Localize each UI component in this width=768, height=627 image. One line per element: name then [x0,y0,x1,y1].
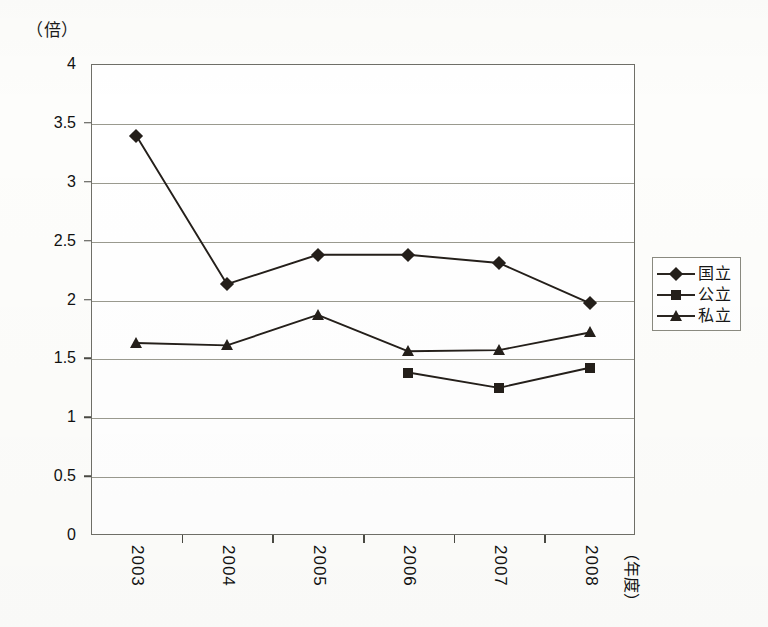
line-chart: （倍） 43.532.521.510.50 200320042005200620… [0,0,768,627]
x-axis-tick-label: 2007 [490,545,510,587]
gridline [92,418,634,419]
data-point-私立-2004 [221,339,233,350]
plot-area [91,64,635,535]
legend-item-公立[interactable]: 公立 [657,284,736,305]
legend-label: 私立 [695,308,731,324]
legend-label: 国立 [695,266,731,282]
data-point-私立-2005 [312,309,324,320]
x-axis-tick-mark [182,535,184,543]
legend-label: 公立 [695,287,731,303]
gridline [92,124,634,125]
y-axis-tick-mark [84,358,91,360]
x-axis-tick-mark [454,535,456,543]
gridline [92,359,634,360]
x-axis-tick-mark [272,535,274,543]
y-axis-tick-label: 1.5 [16,349,76,367]
y-axis-tick-label: 1 [16,408,76,426]
y-axis-tick-mark [84,475,91,477]
data-point-公立-2008 [585,363,595,373]
x-axis-tick-mark [544,535,546,543]
data-point-公立-2007 [494,383,504,393]
x-axis-tick-label: 2006 [399,545,419,587]
data-point-私立-2003 [130,337,142,348]
y-axis-tick-mark [84,122,91,124]
y-axis-tick-label: 3.5 [16,114,76,132]
data-point-公立-2006 [403,368,413,378]
y-axis-tick-mark [84,417,91,419]
gridline [92,301,634,302]
legend-item-私立[interactable]: 私立 [657,305,736,326]
y-axis-tick-mark [84,181,91,183]
x-axis-tick-label: 2003 [127,545,147,587]
y-axis-tick-mark [84,240,91,242]
y-axis-tick-label: 3 [16,173,76,191]
legend-swatch-triangle-icon [657,309,695,323]
legend-swatch-square-icon [657,288,695,302]
gridline [92,183,634,184]
y-axis-tick-label: 0 [16,526,76,544]
legend-item-国立[interactable]: 国立 [657,263,736,284]
x-axis-tick-label: 2008 [581,545,601,587]
y-axis-tick-label: 4 [16,55,76,73]
gridline [92,477,634,478]
data-point-私立-2006 [402,345,414,356]
legend: 国立公立私立 [652,257,741,331]
data-point-私立-2008 [584,326,596,337]
data-point-私立-2007 [493,344,505,355]
x-axis-tick-mark [363,535,365,543]
y-axis-tick-label: 2 [16,291,76,309]
y-axis-unit-label: （倍） [26,16,79,41]
gridline [92,242,634,243]
y-axis-tick-label: 2.5 [16,232,76,250]
legend-swatch-diamond-icon [657,267,695,281]
x-axis-tick-label: 2004 [218,545,238,587]
x-axis-tick-label: 2005 [309,545,329,587]
y-axis-tick-mark [84,299,91,301]
x-axis-title: （年度） [621,545,645,609]
y-axis-tick-label: 0.5 [16,467,76,485]
